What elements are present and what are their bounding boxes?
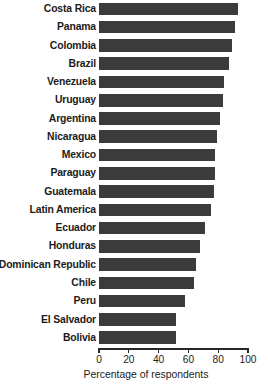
- bar: [99, 185, 214, 198]
- bar-track: [99, 21, 248, 34]
- bar: [99, 295, 185, 308]
- bar-category-label: Panama: [57, 18, 96, 37]
- bar-category-label: Colombia: [50, 37, 96, 56]
- bar-category-label: Argentina: [49, 110, 96, 129]
- bar-category-label: El Salvador: [41, 311, 96, 330]
- bar: [99, 167, 215, 180]
- bar: [99, 222, 205, 235]
- bar: [99, 331, 176, 344]
- bar: [99, 130, 217, 143]
- bar-rows: Costa RicaPanamaColombiaBrazilVenezuelaU…: [0, 0, 268, 347]
- bar-row: Dominican Republic: [0, 256, 268, 274]
- bar-row: Uruguay: [0, 91, 268, 109]
- bar-category-label: Venezuela: [47, 73, 96, 92]
- bar-category-label: Costa Rica: [44, 0, 96, 19]
- bar: [99, 3, 238, 16]
- bar-track: [99, 295, 248, 308]
- bar-category-label: Ecuador: [55, 219, 96, 238]
- x-axis-tick: [158, 348, 159, 353]
- bar-row: Brazil: [0, 55, 268, 73]
- bar-category-label: Bolivia: [63, 329, 96, 348]
- bar-category-label: Peru: [74, 292, 97, 311]
- bar: [99, 258, 196, 271]
- bar-track: [99, 130, 248, 143]
- bar-track: [99, 258, 248, 271]
- bar-track: [99, 39, 248, 52]
- bar-row: Costa Rica: [0, 0, 268, 18]
- bar-row: Guatemala: [0, 183, 268, 201]
- bar-track: [99, 76, 248, 89]
- bar-row: Paraguay: [0, 164, 268, 182]
- bar: [99, 149, 215, 162]
- bar-track: [99, 185, 248, 198]
- bar-track: [99, 204, 248, 217]
- x-axis-tick: [98, 348, 99, 353]
- bar-category-label: Mexico: [62, 146, 96, 165]
- bar: [99, 112, 220, 125]
- x-axis-tick-label: 60: [183, 354, 194, 365]
- bar-track: [99, 313, 248, 326]
- bar-track: [99, 167, 248, 180]
- bar-row: El Salvador: [0, 311, 268, 329]
- bar: [99, 277, 194, 290]
- bar-category-label: Latin America: [30, 201, 96, 220]
- bar-row: Peru: [0, 292, 268, 310]
- bar-row: Colombia: [0, 37, 268, 55]
- x-axis-tick: [247, 348, 248, 353]
- bar-row: Bolivia: [0, 329, 268, 347]
- bar-row: Ecuador: [0, 219, 268, 237]
- bar: [99, 204, 211, 217]
- bar-track: [99, 112, 248, 125]
- bar-row: Latin America: [0, 201, 268, 219]
- bar-category-label: Guatemala: [44, 183, 96, 202]
- bar: [99, 240, 200, 253]
- bar-category-label: Nicaragua: [47, 128, 96, 147]
- bar-row: Mexico: [0, 146, 268, 164]
- bar-category-label: Dominican Republic: [0, 256, 96, 275]
- bar-row: Honduras: [0, 237, 268, 255]
- bar: [99, 313, 176, 326]
- bar-track: [99, 240, 248, 253]
- bar-track: [99, 149, 248, 162]
- bar-row: Nicaragua: [0, 128, 268, 146]
- x-axis-tick-label: 40: [153, 354, 164, 365]
- x-axis-tick-label: 0: [96, 354, 102, 365]
- x-axis-title-label: Percentage of respondents: [84, 369, 209, 380]
- bar-category-label: Uruguay: [55, 91, 96, 110]
- bar-row: Venezuela: [0, 73, 268, 91]
- bar: [99, 76, 224, 89]
- bar-category-label: Chile: [71, 274, 96, 293]
- bar-category-label: Honduras: [49, 237, 96, 256]
- bar-row: Argentina: [0, 110, 268, 128]
- bar: [99, 39, 232, 52]
- x-axis-tick: [128, 348, 129, 353]
- bar-track: [99, 3, 248, 16]
- bar-track: [99, 331, 248, 344]
- bar-row: Panama: [0, 18, 268, 36]
- bar-row: Chile: [0, 274, 268, 292]
- x-axis-tick-label: 20: [123, 354, 134, 365]
- bar-category-label: Brazil: [69, 55, 96, 74]
- bar-chart: Costa RicaPanamaColombiaBrazilVenezuelaU…: [0, 0, 268, 392]
- bar-track: [99, 277, 248, 290]
- bar-track: [99, 94, 248, 107]
- x-axis-line: [99, 348, 249, 350]
- x-axis-tick: [188, 348, 189, 353]
- bar-track: [99, 222, 248, 235]
- x-axis-tick: [218, 348, 219, 353]
- bar: [99, 57, 229, 70]
- x-axis-title: Percentage of respondents: [0, 369, 268, 380]
- bar-track: [99, 57, 248, 70]
- x-axis-tick-label: 100: [240, 354, 257, 365]
- bar: [99, 94, 223, 107]
- bar-category-label: Paraguay: [50, 164, 96, 183]
- bar: [99, 21, 235, 34]
- x-axis-tick-label: 80: [213, 354, 224, 365]
